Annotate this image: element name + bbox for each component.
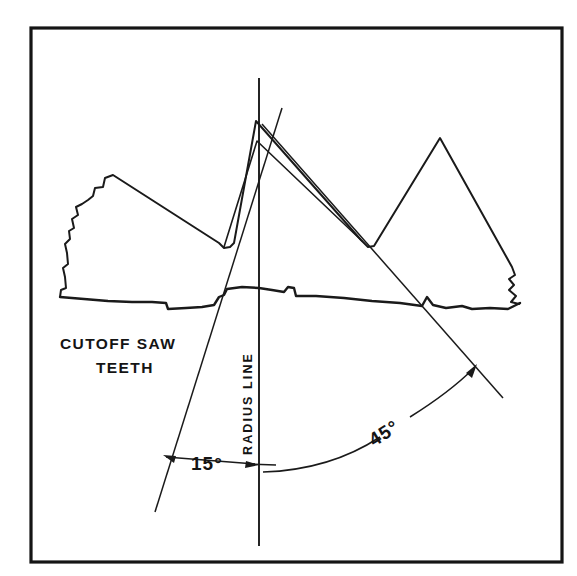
caption-line-2: TEETH — [96, 359, 154, 376]
angle-label-45: 45° — [365, 416, 403, 451]
radius-line-label: RADIUS LINE — [241, 352, 255, 455]
tooth-profile-baseline — [60, 287, 520, 309]
dimension-arc-45-upper — [410, 368, 474, 417]
tooth-profile-outline — [60, 121, 520, 304]
central-tooth-secondary-edge — [224, 141, 362, 247]
dimension-arc-45-lower — [263, 437, 380, 472]
angle-label-15: 15° — [191, 453, 223, 474]
bevel-angle-line-45 — [262, 124, 503, 398]
caption-line-1: CUTOFF SAW — [60, 335, 176, 352]
diagram-figure: CUTOFF SAW TEETH RADIUS LINE 15° 45° — [0, 0, 577, 576]
dimension-tick-radius — [248, 464, 276, 465]
cutoff-saw-teeth-diagram: CUTOFF SAW TEETH RADIUS LINE 15° 45° — [0, 0, 577, 576]
arrow-head-45 — [466, 364, 477, 378]
rake-angle-line-15 — [155, 108, 282, 512]
arrow-head-left-15 — [163, 455, 176, 463]
